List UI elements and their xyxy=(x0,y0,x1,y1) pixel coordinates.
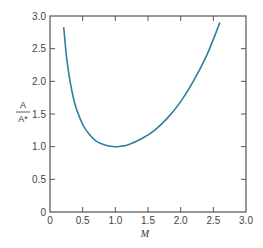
data-series xyxy=(64,23,220,147)
x-tick-label: 2.0 xyxy=(174,215,188,226)
x-tick-label: 2.5 xyxy=(206,215,220,226)
x-tick-label: 1.0 xyxy=(108,215,122,226)
y-tick-label: 1.5 xyxy=(32,109,46,120)
y-axis-title-denominator: A* xyxy=(18,114,28,124)
x-axis-title: M xyxy=(140,228,150,239)
series-line xyxy=(64,23,220,147)
x-tick-label: 0 xyxy=(47,215,53,226)
y-tick-label: 2.0 xyxy=(32,76,46,87)
y-tick-label: 0.5 xyxy=(32,174,46,185)
y-tick-label: 2.5 xyxy=(32,43,46,54)
plot-frame xyxy=(50,16,246,212)
y-tick-label: 3.0 xyxy=(32,11,46,22)
chart: 00.51.01.52.02.53.000.51.01.52.02.53.0 M… xyxy=(0,0,263,248)
y-tick-label: 1.0 xyxy=(32,141,46,152)
x-tick-label: 0.5 xyxy=(76,215,90,226)
y-tick-label: 0 xyxy=(40,207,46,218)
plot-border xyxy=(50,16,246,212)
x-tick-label: 1.5 xyxy=(141,215,155,226)
y-axis-title-numerator: A xyxy=(20,100,26,110)
x-tick-label: 3.0 xyxy=(239,215,253,226)
